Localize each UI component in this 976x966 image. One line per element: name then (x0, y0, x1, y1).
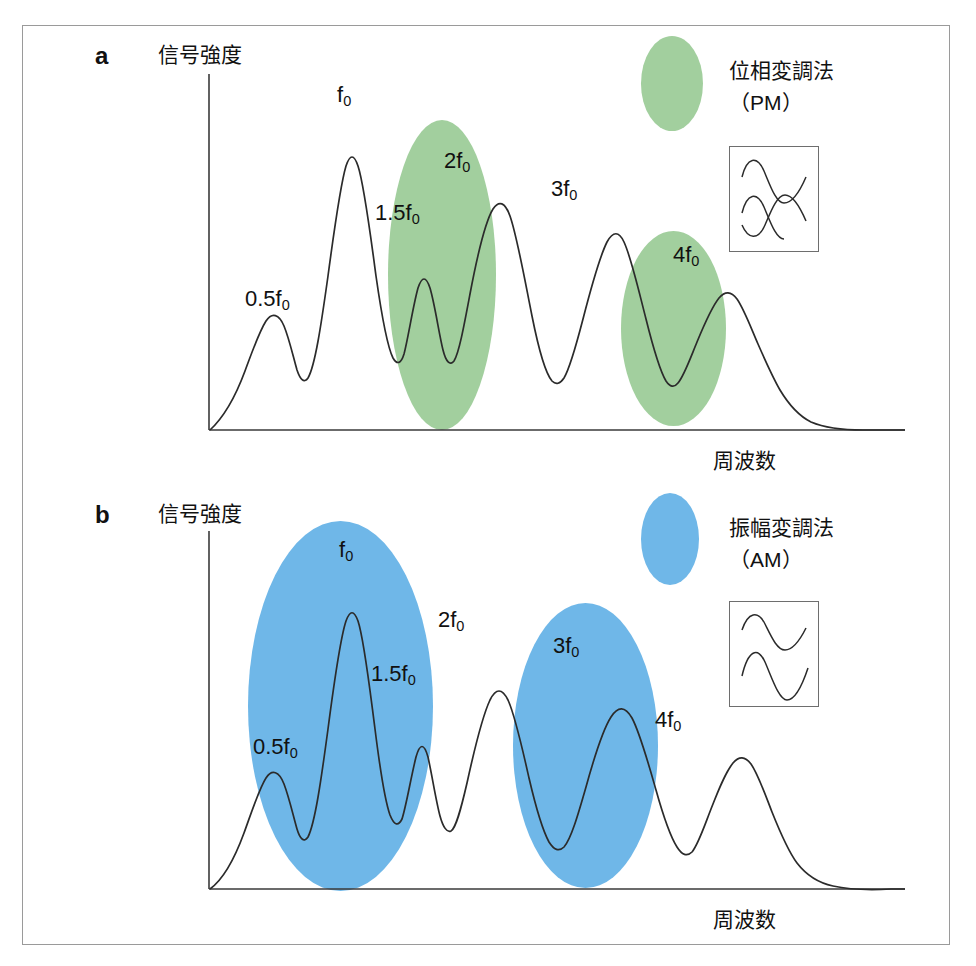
panel-a-legend-wave-box (729, 146, 819, 252)
panel-b-legend-title: 振幅変調法 (729, 515, 834, 542)
panel-a-peak-label-1: f0 (337, 84, 351, 106)
panel-a-peak-label-3-text: 2f (444, 148, 462, 173)
panel-b-peak-label-5-sub: 0 (673, 718, 681, 734)
panel-b-peak-label-2-sub: 0 (408, 672, 416, 688)
panel-a-peak-label-3-sub: 0 (462, 159, 470, 175)
figure-frame: a 信号強度 0.5f0 f0 1.5f0 (22, 25, 950, 945)
panel-a-peak-label-2-text: 1.5f (375, 200, 412, 225)
panel-a-peak-label-0-sub: 0 (282, 297, 290, 313)
panel-a: a 信号強度 0.5f0 f0 1.5f0 (23, 26, 951, 488)
panel-a-plot (23, 26, 951, 488)
panel-a-legend-title: 位相変調法 (729, 58, 834, 85)
panel-a-peak-label-4: 3f0 (551, 178, 577, 200)
amplitude-modulation-wave-icon (730, 602, 818, 706)
panel-b-peak-label-2: 1.5f0 (371, 663, 416, 685)
panel-a-peak-label-2: 1.5f0 (375, 202, 420, 224)
panel-b-legend-wave-box (729, 601, 819, 707)
panel-b-peak-label-4: 3f0 (553, 635, 579, 657)
panel-b-peak-label-3-sub: 0 (456, 618, 464, 634)
panel-b-peak-label-1-sub: 0 (345, 548, 353, 564)
panel-a-peak-label-5-text: 4f (673, 242, 691, 267)
panel-b-legend-marker (641, 493, 699, 585)
panel-a-legend-marker (641, 36, 703, 131)
panel-b-peak-label-5-text: 4f (655, 707, 673, 732)
panel-b-legend-subtitle: （AM） (729, 547, 803, 574)
panel-a-peak-label-5: 4f0 (673, 244, 699, 266)
panel-b-peak-label-5: 4f0 (655, 709, 681, 731)
panel-a-peak-label-2-sub: 0 (412, 211, 420, 227)
figure-root: a 信号強度 0.5f0 f0 1.5f0 (0, 0, 976, 966)
panel-b-peak-label-0: 0.5f0 (253, 736, 298, 758)
phase-modulation-wave-icon (730, 147, 818, 251)
panel-b-peak-label-0-sub: 0 (290, 745, 298, 761)
panel-b: b 信号強度 0.5f0 f0 1.5f0 2f0 (23, 481, 951, 946)
panel-b-plot (23, 481, 951, 946)
panel-b-peak-label-4-text: 3f (553, 633, 571, 658)
panel-a-peak-label-4-text: 3f (551, 176, 569, 201)
panel-a-peak-label-0: 0.5f0 (245, 288, 290, 310)
panel-a-peak-label-3: 2f0 (444, 150, 470, 172)
panel-a-peak-label-1-sub: 0 (343, 93, 351, 109)
panel-a-peak-label-5-sub: 0 (691, 253, 699, 269)
panel-a-peak-label-0-text: 0.5f (245, 286, 282, 311)
panel-b-peak-label-3: 2f0 (438, 609, 464, 631)
panel-a-peak-label-4-sub: 0 (569, 187, 577, 203)
panel-b-peak-label-4-sub: 0 (571, 644, 579, 660)
panel-a-legend-subtitle: （PM） (729, 90, 803, 117)
panel-b-peak-label-1: f0 (339, 539, 353, 561)
panel-b-peak-label-0-text: 0.5f (253, 734, 290, 759)
panel-b-peak-label-3-text: 2f (438, 607, 456, 632)
panel-a-x-axis-label: 周波数 (713, 450, 776, 471)
panel-b-x-axis-label: 周波数 (713, 909, 776, 930)
panel-b-peak-label-2-text: 1.5f (371, 661, 408, 686)
